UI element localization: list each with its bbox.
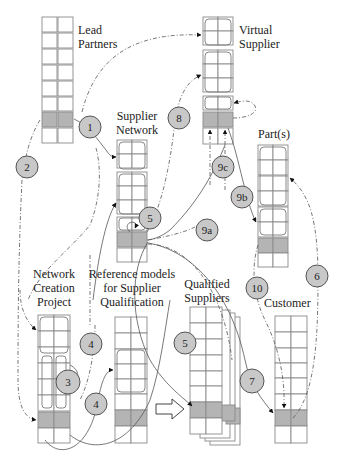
- svg-text:9c: 9c: [218, 161, 229, 173]
- svg-text:4: 4: [88, 338, 94, 350]
- customer-label: Customer: [264, 296, 311, 310]
- step-4-lower: 4: [85, 393, 107, 415]
- customer-column: [275, 316, 307, 443]
- ncp-label-line3: Project: [24, 295, 84, 309]
- svg-text:5: 5: [147, 212, 153, 224]
- ncp-label-line2: Creation: [24, 281, 84, 295]
- svg-text:2: 2: [24, 161, 30, 173]
- parts-label-line1: Part(s): [258, 127, 290, 141]
- step-1: 1: [79, 116, 101, 138]
- reference-models-label: Reference models for Supplier Qualificat…: [86, 267, 178, 309]
- step-9a: 9a: [196, 219, 218, 241]
- customer-label-line1: Customer: [264, 296, 311, 310]
- step-6: 6: [306, 265, 328, 287]
- step-9c: 9c: [212, 156, 234, 178]
- virtual-supplier-label-line1: Virtual: [239, 23, 280, 37]
- step-2: 2: [16, 156, 38, 178]
- supplier-network-label-line1: Supplier: [112, 109, 162, 123]
- reference-models-label-line2: for Supplier: [86, 281, 178, 295]
- svg-text:3: 3: [65, 376, 71, 388]
- qualified-suppliers-label: Qualified Suppliers: [180, 277, 234, 305]
- parts-column: [258, 145, 288, 267]
- virtual-supplier-label: Virtual Supplier: [239, 23, 280, 51]
- virtual-supplier-label-line2: Supplier: [239, 37, 280, 51]
- supplier-network-column: [117, 140, 147, 262]
- block-arrow-right-icon: [156, 399, 184, 419]
- svg-text:4: 4: [93, 398, 99, 410]
- reference-models-label-line3: Qualification: [86, 295, 178, 309]
- step-4-upper: 4: [80, 333, 102, 355]
- svg-text:9b: 9b: [237, 191, 249, 203]
- network-creation-project-label: Network Creation Project: [24, 267, 84, 309]
- supplier-network-label-line2: Network: [112, 123, 162, 137]
- step-9b: 9b: [231, 186, 253, 208]
- qualified-suppliers-label-line2: Suppliers: [180, 291, 234, 305]
- lead-partners-column: [42, 17, 73, 143]
- svg-text:1: 1: [87, 121, 93, 133]
- step-5-qualified: 5: [174, 332, 196, 354]
- svg-text:6: 6: [314, 270, 320, 282]
- step-3: 3: [56, 370, 80, 394]
- svg-text:9a: 9a: [202, 224, 213, 236]
- svg-text:10: 10: [252, 282, 264, 294]
- svg-text:8: 8: [176, 112, 182, 124]
- lead-partners-label: Lead Partners: [78, 23, 117, 51]
- lead-partners-label-line2: Partners: [78, 37, 117, 51]
- diagram-canvas: 1 2 8 9c 9b 9a 5 6 10 4 3 4 5 7: [0, 0, 338, 457]
- svg-text:7: 7: [249, 375, 255, 387]
- svg-text:5: 5: [182, 337, 188, 349]
- ncp-label-line1: Network: [24, 267, 84, 281]
- virtual-supplier-column: [203, 17, 233, 144]
- lead-partners-label-line1: Lead: [78, 23, 117, 37]
- supplier-network-label: Supplier Network: [112, 109, 162, 137]
- step-5-network: 5: [139, 207, 161, 229]
- step-8: 8: [168, 107, 190, 129]
- reference-models-label-line1: Reference models: [86, 267, 178, 281]
- parts-label: Part(s): [258, 127, 290, 141]
- step-7: 7: [240, 369, 264, 393]
- qualified-suppliers-label-line1: Qualified: [180, 277, 234, 291]
- qualified-suppliers-stack: [190, 307, 240, 445]
- reference-models-column: [115, 317, 147, 443]
